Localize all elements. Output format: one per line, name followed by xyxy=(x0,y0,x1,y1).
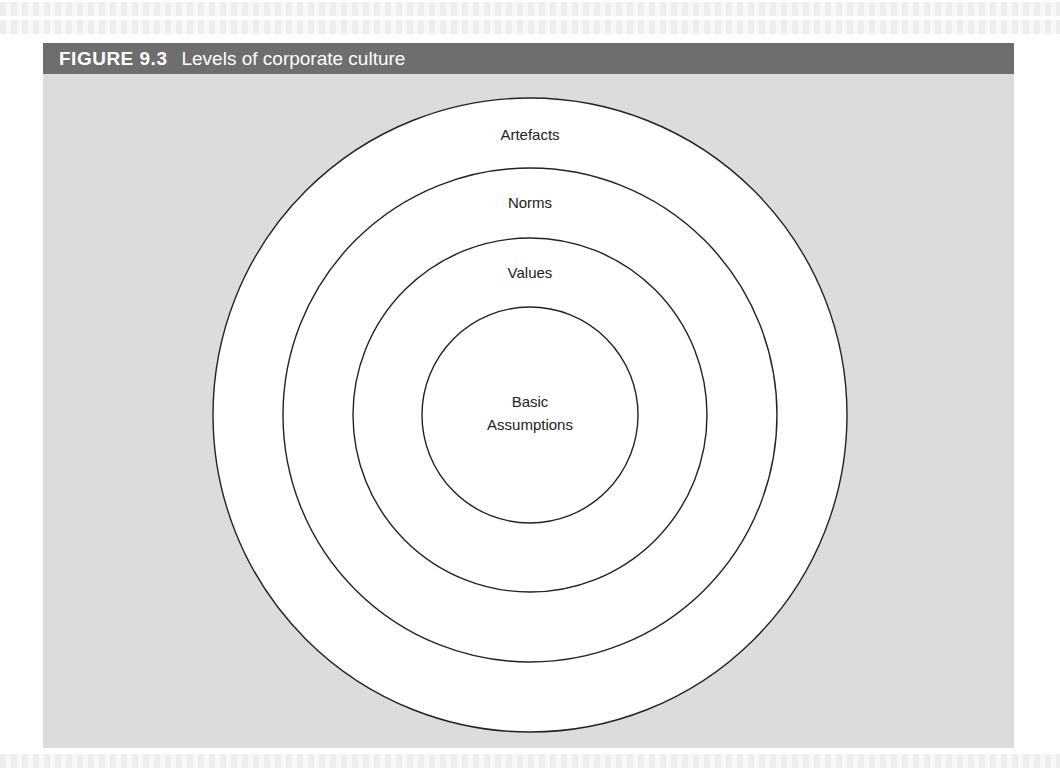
label-basic: Basic xyxy=(512,393,549,410)
concentric-diagram: Artefacts Norms Values Basic Assumptions xyxy=(0,0,1060,776)
label-norms: Norms xyxy=(508,194,552,211)
label-assumptions: Assumptions xyxy=(487,416,573,433)
label-artefacts: Artefacts xyxy=(500,126,559,143)
label-values: Values xyxy=(508,264,553,281)
circle-basic-assumptions xyxy=(422,307,638,523)
